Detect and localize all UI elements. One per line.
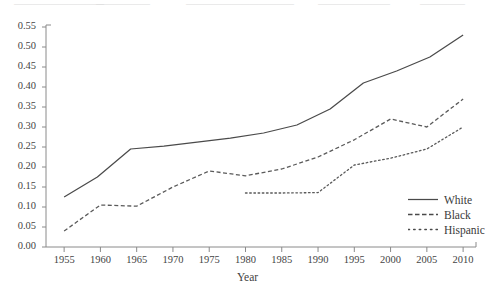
y-axis-tick-label: 0.40 [6,80,36,91]
y-axis-tick-label: 0.30 [6,120,36,131]
x-axis-tick-label: 1960 [80,254,120,265]
x-axis-tick-label: 1975 [189,254,229,265]
x-axis-title: Year [0,271,495,283]
legend-swatch-dotted [408,224,438,235]
y-axis-tick-label: 0.45 [6,60,36,71]
legend-swatch-dashed [408,209,438,220]
x-axis-tick-label: 1990 [298,254,338,265]
x-axis-tick-label: 1985 [262,254,302,265]
legend-swatch-solid [408,194,438,205]
x-axis-tick-label: 1965 [117,254,157,265]
x-axis-tick-label: 1995 [334,254,374,265]
chart-figure: ————————————————————————————————————————… [0,0,495,297]
y-axis-tick-label: 0.20 [6,160,36,171]
y-axis-tick-label: 0.50 [6,40,36,51]
line-chart-plot [0,0,495,297]
x-axis-tick-label: 1980 [225,254,265,265]
y-axis-tick-label: 0.05 [6,220,36,231]
x-axis-tick-label: 2005 [407,254,447,265]
legend-label: Black [444,209,471,221]
legend-label: Hispanic [444,224,485,236]
x-axis-tick-label: 1970 [153,254,193,265]
y-axis-tick-label: 0.00 [6,240,36,251]
series-line-black [64,99,463,231]
y-axis-tick-label: 0.35 [6,100,36,111]
y-axis-tick-label: 0.15 [6,180,36,191]
series-line-hispanic [245,127,463,193]
legend-label: White [444,194,472,206]
x-axis-tick-label: 1955 [44,254,84,265]
y-axis-tick-label: 0.25 [6,140,36,151]
legend-item-hispanic: Hispanic [408,222,485,237]
x-axis-tick-label: 2000 [371,254,411,265]
x-axis-tick-label: 2010 [443,254,483,265]
y-axis-tick-label: 0.10 [6,200,36,211]
legend-item-black: Black [408,207,485,222]
chart-legend: WhiteBlackHispanic [408,192,485,237]
y-axis-tick-label: 0.55 [6,20,36,31]
legend-item-white: White [408,192,485,207]
